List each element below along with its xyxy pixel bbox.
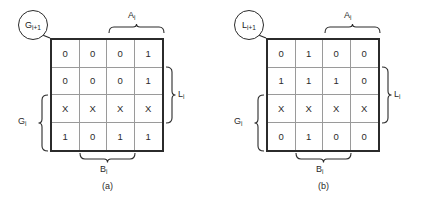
bottom-brace-a [79, 153, 136, 163]
left-brace-a [38, 94, 49, 152]
top-brace-a [108, 24, 165, 33]
kmap-cell: 1 [135, 68, 163, 96]
kmap-cell: X [268, 95, 296, 123]
kmap-cell: X [323, 95, 351, 123]
kmap-cell: 1 [52, 123, 80, 151]
callout-label-base: G [25, 20, 32, 30]
kmap-cell: 1 [296, 123, 324, 151]
kmap-cell: X [351, 95, 379, 123]
right-brace-b [382, 66, 392, 124]
left-label-base-a: G [18, 116, 25, 126]
kmap-cell: X [80, 95, 108, 123]
karnaugh-map-figure: Gi+1 Ai Bi Li [0, 0, 431, 206]
kmap-cell: 0 [268, 40, 296, 68]
left-brace-label-a: Gi [18, 116, 26, 126]
kmap-cell: 0 [268, 123, 296, 151]
kmap-cell: 1 [323, 68, 351, 96]
kmap-grid-a: 0 0 0 1 0 0 0 1 X X X X 1 0 1 1 [50, 38, 164, 152]
callout-circle-g-next: Gi+1 [18, 10, 48, 40]
kmap-cell: 0 [80, 123, 108, 151]
kmap-cell: X [107, 95, 135, 123]
right-label-sub-a: i [183, 93, 184, 100]
bottom-label-sub-a: i [106, 168, 107, 175]
kmap-cell: 1 [296, 40, 324, 68]
bottom-label-sub-b: i [322, 168, 323, 175]
callout-label-sub: i+1 [32, 24, 41, 31]
top-brace-label-a: Ai [128, 10, 135, 20]
bottom-brace-label-b: Bi [316, 164, 323, 174]
kmap-cell: X [135, 95, 163, 123]
kmap-cell: 0 [323, 123, 351, 151]
kmap-cell: 0 [52, 40, 80, 68]
left-label-base-b: G [234, 116, 241, 126]
left-label-sub-a: i [25, 120, 26, 127]
kmap-cell: 0 [351, 68, 379, 96]
bottom-brace-b [295, 153, 352, 163]
right-brace-a [166, 66, 176, 124]
top-label-sub-a: i [134, 14, 135, 21]
kmap-cell: 0 [351, 123, 379, 151]
kmap-cell: 1 [296, 68, 324, 96]
kmap-cell: X [52, 95, 80, 123]
caption-text-a: (a) [102, 181, 113, 191]
kmap-cell: 0 [80, 40, 108, 68]
panel-caption-a: (a) [0, 181, 215, 191]
kmap-cell: 0 [52, 68, 80, 96]
right-label-sub-b: i [399, 93, 400, 100]
kmap-cell: 0 [107, 40, 135, 68]
kmap-grid-b: 0 1 0 0 1 1 1 0 X X X X 0 1 0 0 [266, 38, 380, 152]
right-brace-label-a: Li [178, 89, 184, 99]
left-brace-b [254, 94, 265, 152]
caption-text-b: (b) [318, 181, 329, 191]
kmap-panel-b: Li+1 Ai Bi Li [216, 0, 431, 206]
top-brace-label-b: Ai [344, 10, 351, 20]
kmap-cell: X [296, 95, 324, 123]
kmap-cell: 0 [80, 68, 108, 96]
right-brace-label-b: Li [394, 89, 400, 99]
top-brace-b [324, 24, 381, 33]
panel-caption-b: (b) [216, 181, 431, 191]
callout-label-sub: i+1 [247, 24, 256, 31]
callout-circle-l-next: Li+1 [234, 10, 264, 40]
bottom-brace-label-a: Bi [100, 164, 107, 174]
left-label-sub-b: i [241, 120, 242, 127]
kmap-panel-a: Gi+1 Ai Bi Li [0, 0, 215, 206]
kmap-cell: 0 [323, 40, 351, 68]
left-brace-label-b: Gi [234, 116, 242, 126]
kmap-cell: 1 [135, 123, 163, 151]
kmap-cell: 1 [268, 68, 296, 96]
kmap-cell: 0 [351, 40, 379, 68]
kmap-cell: 1 [107, 123, 135, 151]
top-label-sub-b: i [350, 14, 351, 21]
kmap-cell: 1 [135, 40, 163, 68]
kmap-cell: 0 [107, 68, 135, 96]
